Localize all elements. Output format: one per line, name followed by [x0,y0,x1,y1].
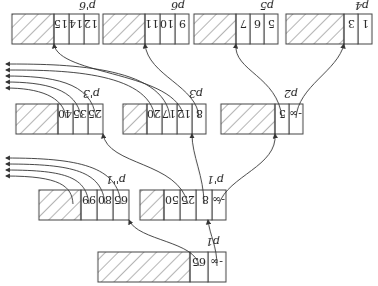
key: 10 [160,17,174,30]
node-label: p6 [171,0,185,12]
key: 6 [254,17,261,30]
node-p1: -∞ 65 p1 [98,235,226,282]
key: 15 [54,17,68,30]
key: 5 [268,17,275,30]
node-label: p4 [355,0,369,12]
key: 65 [114,193,128,206]
node-p6: 9 10 11 p6 [103,0,189,44]
node-label: p'3 [83,87,100,100]
node-label: p'6 [79,0,96,12]
key: 3 [348,17,355,30]
key: 50 [165,193,179,206]
tree-diagram: -∞ 65 p1 -∞ 8 25 50 p'1 65 80 99 p''1 -∞… [0,0,378,286]
node-label: p''1 [106,173,126,186]
key: 14 [69,17,83,30]
node-p5: 5 6 7 p5 [194,0,278,44]
key: -∞ [212,193,225,206]
node-label: p'1 [207,173,224,186]
node-label: p5 [260,0,274,12]
key: 80 [98,193,112,206]
node-p3prime: 25 35 40 p'3 [16,87,103,134]
node-p1doubleprime: 65 80 99 p''1 [39,173,129,220]
key: 1 [362,17,369,30]
key: 99 [82,193,96,206]
key: 65 [192,255,206,268]
edges [6,44,344,266]
node-p2: -∞ 5 p2 [221,87,303,134]
key: 25 [181,193,195,206]
key: 11 [145,17,159,30]
node-label: p2 [284,87,298,100]
node-p4: 1 3 p4 [286,0,372,44]
node-p1prime: -∞ 8 25 50 p'1 [140,173,226,220]
key: 12 [84,17,98,30]
key: 9 [179,17,186,30]
key: -∞ [289,107,302,120]
key: 12 [177,107,191,120]
node-p6prime: 12 14 15 p'6 [12,0,99,44]
diagram-svg: -∞ 65 p1 -∞ 8 25 50 p'1 65 80 99 p''1 -∞… [0,0,378,286]
node-p3: 8 12 17 20 p3 [123,87,206,134]
key: 7 [240,17,247,30]
